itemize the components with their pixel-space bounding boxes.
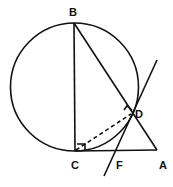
right-angle-marker-d (124, 106, 132, 110)
label-a: A (159, 159, 167, 171)
tangent-line-df (104, 60, 157, 176)
label-d: D (135, 108, 143, 120)
segment-bc (74, 23, 75, 151)
label-b: B (69, 6, 77, 18)
geometry-diagram: B C D F A (0, 0, 173, 187)
label-c: C (71, 159, 79, 171)
label-f: F (116, 159, 123, 171)
